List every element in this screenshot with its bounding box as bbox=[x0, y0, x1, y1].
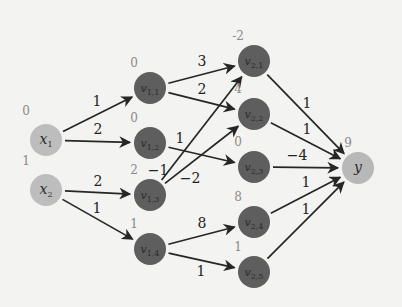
node-v12: 0v1,2 bbox=[130, 111, 166, 159]
node-v21: -2v2,1 bbox=[232, 29, 270, 77]
edge-v11-v22: 2 bbox=[168, 81, 234, 109]
node-value-label: 1 bbox=[130, 217, 138, 231]
node-y: 9y bbox=[342, 136, 374, 184]
edge-weight-label: −1 bbox=[148, 162, 169, 178]
edge-weight-label: 1 bbox=[93, 200, 102, 216]
edge-v23-y: −4 bbox=[273, 147, 338, 168]
edge-weight-label: 1 bbox=[303, 95, 312, 111]
node-value-label: 1 bbox=[234, 240, 242, 254]
node-value-label: 0 bbox=[234, 135, 242, 149]
node-value-label: 1 bbox=[22, 154, 30, 168]
node-value-label: 0 bbox=[130, 56, 138, 70]
node-v24: 8v2,4 bbox=[234, 190, 270, 238]
edge-weight-label: 3 bbox=[198, 53, 207, 69]
neural-network-diagram: 1221321−1−28111−411 0x11x20v1,10v1,22v1,… bbox=[0, 0, 402, 307]
edge-v21-y: 1 bbox=[267, 75, 344, 154]
node-x2: 1x2 bbox=[22, 154, 62, 206]
edge-weight-label: 2 bbox=[198, 81, 207, 97]
edge-weight-label: 1 bbox=[303, 121, 312, 137]
edge-arrow bbox=[267, 75, 344, 154]
edge-x2-v14: 1 bbox=[63, 199, 133, 239]
edge-weight-label: 2 bbox=[94, 173, 103, 189]
edge-weight-label: 1 bbox=[302, 174, 311, 190]
edge-v14-v25: 1 bbox=[169, 253, 235, 279]
edge-weight-label: −4 bbox=[287, 147, 308, 163]
edge-v11-v21: 3 bbox=[168, 53, 234, 83]
node-value-label: 8 bbox=[234, 190, 242, 204]
edge-weight-label: −2 bbox=[180, 170, 201, 186]
node-v23: 0v2,3 bbox=[234, 135, 270, 183]
node-v22: 4v2,2 bbox=[234, 82, 270, 130]
edge-weight-label: 1 bbox=[176, 130, 185, 146]
edge-arrow bbox=[65, 141, 130, 143]
node-v14: 1v1,4 bbox=[130, 217, 166, 265]
edges-layer: 1221321−1−28111−411 bbox=[63, 53, 345, 279]
node-name-label: y bbox=[353, 159, 363, 175]
edge-weight-label: 1 bbox=[93, 93, 102, 109]
edge-weight-label: 1 bbox=[302, 201, 311, 217]
node-value-label: 2 bbox=[130, 163, 138, 177]
edge-v14-v24: 8 bbox=[168, 215, 234, 244]
node-x1: 0x1 bbox=[22, 104, 62, 156]
edge-weight-label: 2 bbox=[94, 121, 103, 137]
node-value-label: 9 bbox=[344, 136, 352, 150]
edge-arrow bbox=[267, 182, 343, 258]
node-v11: 0v1,1 bbox=[130, 56, 166, 104]
edge-arrow bbox=[273, 167, 338, 168]
node-value-label: 0 bbox=[130, 111, 138, 125]
node-value-label: 4 bbox=[234, 82, 242, 96]
edge-v25-y: 1 bbox=[267, 182, 343, 258]
edge-x2-v13: 2 bbox=[65, 173, 130, 194]
node-v25: 1v2,5 bbox=[234, 240, 270, 288]
edge-weight-label: 1 bbox=[197, 263, 206, 279]
edge-arrow bbox=[65, 191, 130, 194]
node-value-label: 0 bbox=[22, 104, 30, 118]
edge-x1-v12: 2 bbox=[65, 121, 130, 142]
edge-weight-label: 8 bbox=[198, 215, 207, 231]
node-value-label: -2 bbox=[232, 29, 244, 43]
